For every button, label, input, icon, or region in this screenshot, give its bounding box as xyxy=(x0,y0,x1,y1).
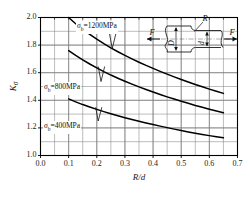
inset-radius-label: R xyxy=(201,13,208,23)
series-curves xyxy=(69,18,224,138)
inset-force-left-label: F xyxy=(148,27,155,37)
leader-lines xyxy=(96,33,116,121)
chart-svg: FFDdR xyxy=(0,0,251,198)
x-tick-label: 0.4 xyxy=(144,159,162,168)
y-tick-label: 1.4 xyxy=(18,95,37,104)
y-tick-label: 1.2 xyxy=(18,122,37,131)
x-axis-title: R/d xyxy=(119,172,159,182)
inset-large-diameter-label: D xyxy=(167,40,176,47)
x-tick-label: 0.2 xyxy=(88,159,106,168)
x-tick-label: 0.7 xyxy=(229,159,247,168)
y-tick-label: 1.8 xyxy=(18,40,37,49)
x-tick-label: 0.0 xyxy=(32,159,50,168)
inset-small-diameter-label: d xyxy=(197,41,206,45)
x-tick-label: 0.5 xyxy=(172,159,190,168)
x-tick-label: 0.1 xyxy=(60,159,78,168)
y-tick-label: 1.0 xyxy=(18,150,37,159)
x-tick-label: 0.3 xyxy=(116,159,134,168)
y-tick-label: 2.0 xyxy=(18,12,37,21)
curve-label-400mpa: σb=400MPa xyxy=(43,121,81,134)
curve-label-800mpa: σb=800MPa xyxy=(43,82,81,95)
y-tick-label: 1.6 xyxy=(18,67,37,76)
chart-figure: FFDdR Kσ R/d 0.00.10.20.30.40.50.60.71.0… xyxy=(0,0,251,198)
curve-label-1200mpa: σb=1200MPa xyxy=(76,21,118,34)
inset-force-right-label: F xyxy=(228,27,235,37)
x-tick-label: 0.6 xyxy=(200,159,218,168)
